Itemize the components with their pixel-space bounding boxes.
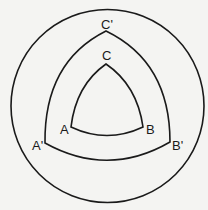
label-a-prime: A' <box>32 138 43 153</box>
label-c-prime: C' <box>101 17 113 32</box>
diagram-canvas: C' C A B A' B' <box>0 0 208 210</box>
label-b: B <box>146 122 155 137</box>
bounding-circle <box>11 10 204 203</box>
label-a: A <box>60 122 69 137</box>
label-b-prime: B' <box>172 138 183 153</box>
inner-triangle <box>71 64 143 136</box>
label-c: C <box>102 48 111 63</box>
